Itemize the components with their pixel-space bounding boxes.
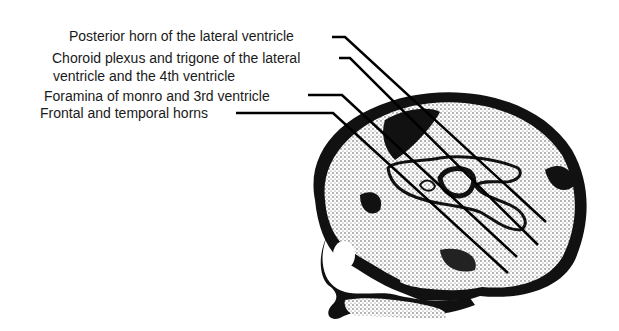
orbit <box>333 241 355 269</box>
skull-illustration <box>0 0 619 331</box>
